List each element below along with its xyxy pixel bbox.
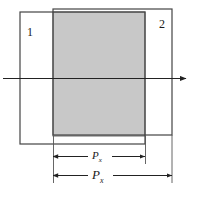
- outer-dimension-label: Px: [91, 167, 104, 185]
- figure-container: 1 2 Px Px: [0, 0, 199, 200]
- diagram-canvas: 1 2 Px Px: [0, 0, 199, 200]
- inner-dimension-label: Px: [91, 149, 103, 164]
- outer-dimension-label-subscript: x: [99, 176, 104, 185]
- rectangle-2-label: 2: [159, 17, 165, 31]
- inner-dimension-label-subscript: x: [98, 156, 103, 164]
- outer-dimension-label-base: P: [91, 167, 100, 182]
- overlap-region: [53, 12, 145, 136]
- rectangle-1-label: 1: [27, 25, 33, 39]
